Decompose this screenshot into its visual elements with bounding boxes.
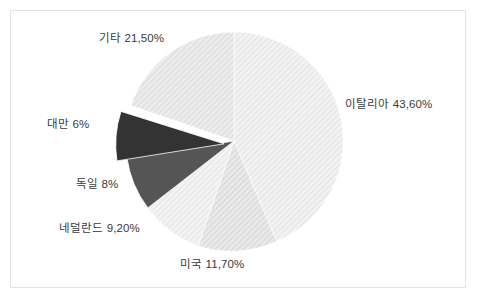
slice-label-etc: 기타 21,50% [99,33,164,45]
slice-label-taiwan: 대만 6% [47,119,89,131]
slice-label-netherlands: 네덜란드 9,20% [59,223,140,235]
pie-canvas [0,0,477,300]
slice-label-usa: 미국 11,70% [180,259,244,271]
slice-label-germany: 독일 8% [76,179,118,191]
pie-chart-figure: 기타 21,50% 이탈리아 43,60% 대만 6% 독일 8% 네덜란드 9… [0,0,477,300]
slice-label-italy: 이탈리아 43,60% [345,99,432,111]
